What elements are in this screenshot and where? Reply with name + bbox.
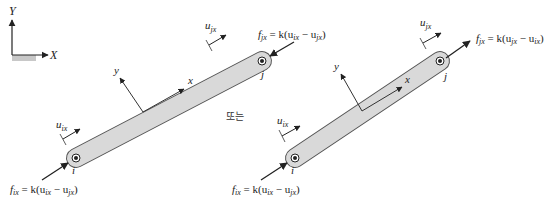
right-spring-element: i j y x uix ujx fix = k(uix − ujx) fjx =… [232, 16, 544, 197]
global-x-label: X [49, 48, 58, 62]
local-y-label: y [113, 64, 119, 76]
f-jx-arrow [270, 42, 294, 56]
f-jx-equation: fjx = k(uix − ujx) [258, 28, 326, 42]
node-j-label: j [442, 70, 447, 82]
global-axes: Y X [9, 4, 58, 62]
local-y-label: y [333, 60, 339, 72]
connector-text: 또는 [226, 111, 244, 122]
spring-element-diagram: Y X i j y x uix ujx fix = k(uix − ujx) f… [0, 0, 546, 205]
local-x-label: x [404, 73, 410, 85]
node-i-label: i [72, 164, 75, 176]
u-ix-label: uix [277, 114, 289, 129]
local-y-arrow [120, 78, 143, 112]
left-spring-element: i j y x uix ujx fix = k(uix − ujx) fjx =… [10, 19, 326, 197]
f-jx-equation: fjx = k(ujx − uix) [476, 32, 544, 46]
f-ix-equation: fix = k(uix − ujx) [10, 183, 78, 197]
u-jx-label: ujx [205, 19, 217, 34]
bar-body [76, 61, 262, 158]
u-ix-label: uix [56, 118, 68, 133]
u-jx-label: ujx [420, 16, 432, 31]
bar-body [295, 61, 440, 158]
global-y-label: Y [9, 4, 17, 18]
node-i-label: i [291, 164, 294, 176]
local-y-arrow [341, 74, 362, 111]
f-ix-arrow [42, 163, 68, 180]
ground-hatch [12, 55, 36, 61]
f-ix-equation: fix = k(uix − ujx) [232, 183, 300, 197]
f-jx-arrow [446, 41, 470, 58]
f-ix-arrow [261, 163, 287, 180]
u-jx-arrow [209, 35, 226, 45]
local-x-label: x [187, 74, 193, 86]
u-jx-arrow [423, 33, 441, 43]
